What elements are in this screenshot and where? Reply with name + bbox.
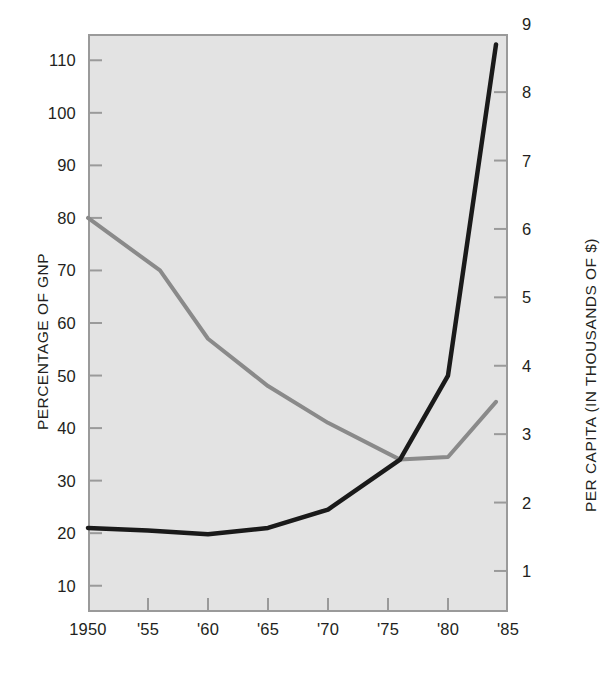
y-axis-right-tick-label: 6 [522, 219, 531, 238]
y-axis-right-tick-label: 7 [522, 151, 531, 170]
y-axis-right-tick-label: 1 [522, 561, 531, 580]
y-axis-right-tick-label: 5 [522, 288, 531, 307]
y-axis-left-tick-label: 80 [10, 208, 76, 227]
y-axis-right-tick-label: 3 [522, 425, 531, 444]
x-axis-tick-label: '70 [317, 620, 339, 639]
x-axis-tick-label: 1950 [69, 620, 107, 639]
y-axis-right-title: PER CAPITA (IN THOUSANDS OF $) [582, 238, 600, 512]
y-axis-left-tick-label: 10 [10, 576, 76, 595]
y-axis-left-ticks [88, 60, 102, 585]
y-axis-left-tick-label: 30 [10, 471, 76, 490]
series-lines [88, 45, 496, 535]
x-axis-tick-label: '85 [497, 620, 519, 639]
x-axis-tick-label: '65 [257, 620, 279, 639]
y-axis-right-tick-label: 8 [522, 83, 531, 102]
y-axis-left-tick-label: 90 [10, 156, 76, 175]
y-axis-left-tick-label: 110 [10, 51, 76, 70]
x-axis-ticks [148, 598, 448, 612]
y-axis-left-title: PERCENTAGE OF GNP [34, 253, 52, 430]
y-axis-right-ticks [494, 92, 508, 571]
x-axis-tick-label: '80 [437, 620, 459, 639]
y-axis-left-tick-label: 100 [10, 103, 76, 122]
y-axis-right-tick-label: 9 [522, 14, 531, 33]
series-line-per-capita-thousands-of-dollars [88, 45, 496, 535]
x-axis-tick-label: '60 [197, 620, 219, 639]
series-line-percentage-of-gnp [88, 218, 496, 460]
x-axis-tick-label: '55 [137, 620, 159, 639]
y-axis-right-tick-label: 4 [522, 356, 531, 375]
x-axis-tick-label: '75 [377, 620, 399, 639]
y-axis-right-tick-label: 2 [522, 493, 531, 512]
y-axis-left-tick-label: 20 [10, 524, 76, 543]
